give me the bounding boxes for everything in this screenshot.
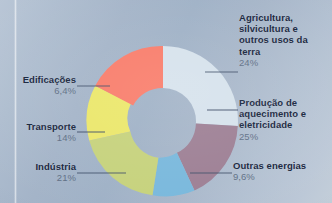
label-transporte[interactable]: Transporte 14% <box>4 121 76 144</box>
label-transporte-value: 14% <box>4 132 76 143</box>
slice-industria[interactable] <box>89 132 158 196</box>
label-outras-energias[interactable]: Outras energias 9,6% <box>233 160 332 183</box>
label-edificacoes-line1: Edificações <box>4 74 76 85</box>
label-agricultura-line1: Agricultura, <box>239 12 332 23</box>
label-agricultura-line3: outros usos da <box>239 34 332 45</box>
label-agricultura-line4: terra <box>239 46 332 57</box>
label-producao-line3: eletricidade <box>239 119 332 130</box>
label-agricultura[interactable]: Agricultura, silvicultura e outros usos … <box>239 12 332 68</box>
label-edificacoes-value: 6,4% <box>4 85 76 96</box>
label-industria[interactable]: Indústria 21% <box>4 161 76 184</box>
label-outras-energias-value: 9,6% <box>233 171 332 182</box>
label-producao-value: 25% <box>239 131 332 142</box>
label-transporte-line1: Transporte <box>4 121 76 132</box>
label-industria-value: 21% <box>4 172 76 183</box>
label-producao-line2: aquecimento e <box>239 108 332 119</box>
label-producao-line1: Produção de <box>239 97 332 108</box>
label-agricultura-value: 24% <box>239 57 332 68</box>
label-edificacoes[interactable]: Edificações 6,4% <box>4 74 76 97</box>
label-industria-line1: Indústria <box>4 161 76 172</box>
label-agricultura-line2: silvicultura e <box>239 23 332 34</box>
label-producao[interactable]: Produção de aquecimento e eletricidade 2… <box>239 97 332 142</box>
chart-figure: Agricultura, silvicultura e outros usos … <box>0 0 332 203</box>
label-outras-energias-line1: Outras energias <box>233 160 332 171</box>
slice-agricultura[interactable] <box>163 46 238 126</box>
